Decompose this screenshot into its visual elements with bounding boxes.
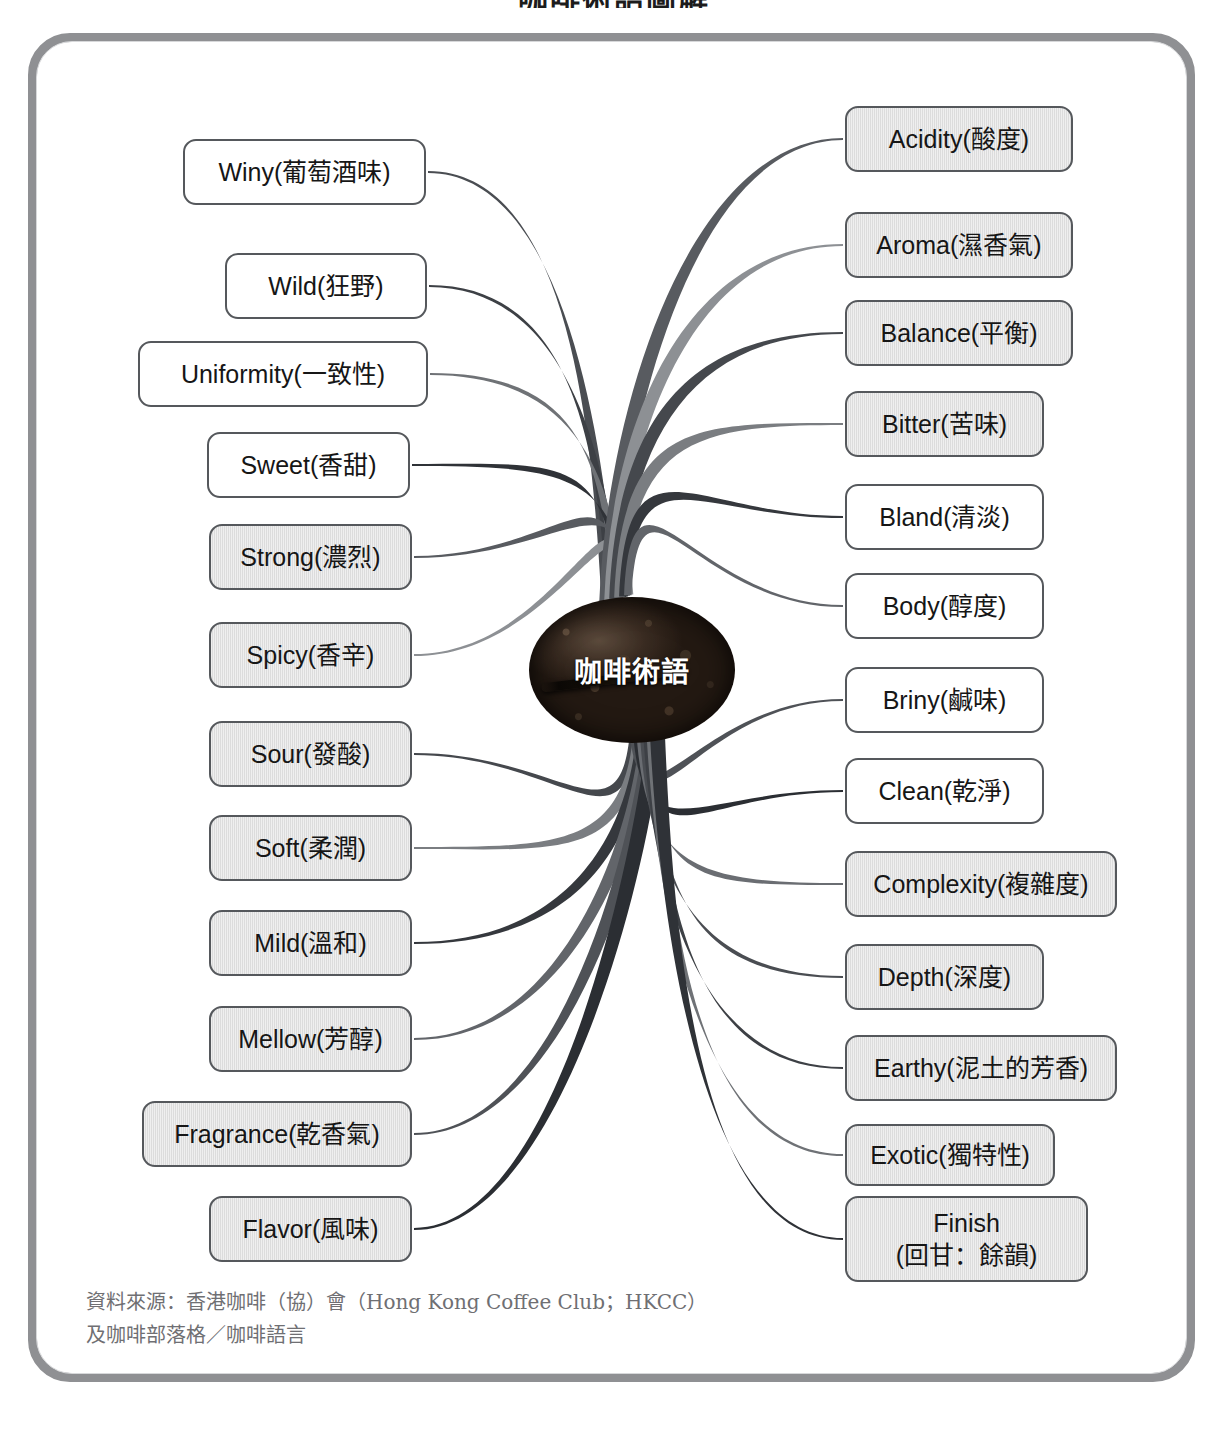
connector-right-12: [650, 729, 843, 1240]
term-node-bland[interactable]: Bland(清淡): [845, 484, 1044, 550]
source-line-2: 及咖啡部落格／咖啡語言: [86, 1319, 986, 1352]
term-node-exotic[interactable]: Exotic(獨特性): [845, 1124, 1055, 1186]
term-label: Clean(乾淨): [879, 777, 1011, 806]
term-node-depth[interactable]: Depth(深度): [845, 944, 1044, 1010]
connector-right-5: [624, 525, 843, 607]
term-node-soft[interactable]: Soft(柔潤): [209, 815, 412, 881]
connector-left-7: [414, 724, 643, 850]
term-node-acidity[interactable]: Acidity(酸度): [845, 106, 1073, 172]
term-label: Sour(發酸): [251, 740, 370, 769]
term-node-sour[interactable]: Sour(發酸): [209, 721, 412, 787]
term-label: Mild(溫和): [254, 929, 367, 958]
term-label: Earthy(泥土的芳香): [874, 1054, 1088, 1083]
term-node-earthy[interactable]: Earthy(泥土的芳香): [845, 1035, 1117, 1101]
source-credit: 資料來源：香港咖啡（協）會（Hong Kong Coffee Club；HKCC…: [86, 1286, 986, 1352]
term-label-line1: Finish: [933, 1207, 1000, 1239]
term-node-balance[interactable]: Balance(平衡): [845, 300, 1073, 366]
term-node-wild[interactable]: Wild(狂野): [225, 253, 427, 319]
center-label: 咖啡術語: [529, 640, 735, 700]
connector-right-4: [619, 492, 843, 596]
term-label-line2: (回甘：餘韻): [896, 1239, 1038, 1271]
term-label: Wild(狂野): [268, 272, 383, 301]
term-node-mellow[interactable]: Mellow(芳醇): [209, 1006, 412, 1072]
term-label: Bland(清淡): [879, 503, 1010, 532]
term-node-briny[interactable]: Briny(鹹味): [845, 667, 1044, 733]
term-label: Strong(濃烈): [240, 543, 380, 572]
term-label: Depth(深度): [878, 963, 1011, 992]
term-label: Aroma(濕香氣): [876, 231, 1041, 260]
term-node-finish[interactable]: Finish(回甘：餘韻): [845, 1196, 1088, 1282]
term-label: Balance(平衡): [881, 319, 1038, 348]
term-label: Uniformity(一致性): [181, 360, 385, 389]
term-node-fragrance[interactable]: Fragrance(乾香氣): [142, 1101, 412, 1167]
term-label: Soft(柔潤): [255, 834, 366, 863]
term-label: Exotic(獨特性): [870, 1141, 1030, 1170]
term-label: Fragrance(乾香氣): [174, 1120, 380, 1149]
term-node-body[interactable]: Body(醇度): [845, 573, 1044, 639]
term-label: Body(醇度): [883, 592, 1007, 621]
term-node-spicy[interactable]: Spicy(香辛): [209, 622, 412, 688]
term-node-complexity[interactable]: Complexity(複雜度): [845, 851, 1117, 917]
term-label: Complexity(複雜度): [873, 870, 1088, 899]
term-label: Sweet(香甜): [240, 451, 376, 480]
term-node-mild[interactable]: Mild(溫和): [209, 910, 412, 976]
connector-left-0: [428, 171, 616, 601]
term-label: Mellow(芳醇): [238, 1025, 382, 1054]
term-node-bitter[interactable]: Bitter(苦味): [845, 391, 1044, 457]
coffee-terminology-mindmap: 咖啡術語圖解 Winy(葡萄酒味)Wild(狂野)Uniformity(一致性)…: [0, 0, 1228, 1439]
term-label: Briny(鹹味): [883, 686, 1007, 715]
term-label: Spicy(香辛): [247, 641, 375, 670]
term-node-winy[interactable]: Winy(葡萄酒味): [183, 139, 426, 205]
term-label: Bitter(苦味): [882, 410, 1007, 439]
term-node-flavor[interactable]: Flavor(風味): [209, 1196, 412, 1262]
source-line-1: 資料來源：香港咖啡（協）會（Hong Kong Coffee Club；HKCC…: [86, 1286, 986, 1319]
term-label: Flavor(風味): [242, 1215, 378, 1244]
term-node-sweet[interactable]: Sweet(香甜): [207, 432, 410, 498]
connector-right-1: [604, 244, 843, 600]
term-node-aroma[interactable]: Aroma(濕香氣): [845, 212, 1073, 278]
term-node-uniformity[interactable]: Uniformity(一致性): [138, 341, 428, 407]
term-node-clean[interactable]: Clean(乾淨): [845, 758, 1044, 824]
term-label: Winy(葡萄酒味): [218, 158, 390, 187]
term-node-strong[interactable]: Strong(濃烈): [209, 524, 412, 590]
term-label: Acidity(酸度): [889, 125, 1029, 154]
